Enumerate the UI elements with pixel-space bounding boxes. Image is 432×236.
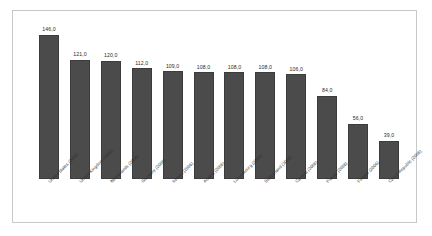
- bar-rect[interactable]: [317, 96, 337, 179]
- category-tick: United Kingdom (2006): [70, 179, 90, 223]
- bar-value-label: 84,0: [322, 88, 333, 93]
- category-tick: Ireland (2006): [163, 179, 183, 223]
- bar-rect[interactable]: [163, 71, 183, 179]
- category-tick: Germany (2006): [132, 179, 152, 223]
- plot-area: 146,0121,0120,0112,0109,0108,0108,0108,0…: [13, 11, 416, 222]
- category-tick: Finland (2006): [348, 179, 368, 223]
- category-tick: France (2006): [317, 179, 337, 223]
- category-tick: Canada (2006): [286, 179, 306, 223]
- bar-rect[interactable]: [39, 35, 59, 179]
- bar-item[interactable]: 108,0: [194, 11, 214, 179]
- bar-value-label: 56,0: [353, 116, 364, 121]
- category-tick: Switzerland (2006): [255, 179, 275, 223]
- bar-item[interactable]: 109,0: [163, 11, 183, 179]
- bar-value-label: 112,0: [135, 61, 148, 66]
- bar-rect[interactable]: [132, 68, 152, 179]
- bar-value-label: 106,0: [290, 67, 303, 72]
- category-tick: Luxembourg (2006): [224, 179, 244, 223]
- category-axis: United States (2006)United Kingdom (2006…: [39, 179, 399, 223]
- bar-value-label: 121,0: [73, 52, 86, 57]
- category-tick: United States (2006): [39, 179, 59, 223]
- category-tick: Netherlands (2006): [101, 179, 121, 223]
- bar-item[interactable]: 56,0: [348, 11, 368, 179]
- bar-item[interactable]: 39,0: [379, 11, 399, 179]
- bar-rect[interactable]: [255, 72, 275, 179]
- bar-value-label: 108,0: [228, 65, 241, 70]
- bar-value-label: 120,0: [104, 53, 117, 58]
- bar-value-label: 146,0: [42, 27, 55, 32]
- category-tick: Austria (2006): [194, 179, 214, 223]
- bar-value-label: 108,0: [197, 65, 210, 70]
- bar-item[interactable]: 146,0: [39, 11, 59, 179]
- bar-rect[interactable]: [286, 74, 306, 179]
- bar-item[interactable]: 84,0: [317, 11, 337, 179]
- bar-item[interactable]: 108,0: [224, 11, 244, 179]
- bar-rect[interactable]: [194, 72, 214, 179]
- bar-value-label: 108,0: [259, 65, 272, 70]
- bar-value-label: 39,0: [384, 133, 395, 138]
- category-tick: Czech Republic (2006): [379, 179, 399, 223]
- chart-frame: 146,0121,0120,0112,0109,0108,0108,0108,0…: [12, 10, 417, 223]
- bar-value-label: 109,0: [166, 64, 179, 69]
- bar-series: 146,0121,0120,0112,0109,0108,0108,0108,0…: [39, 11, 399, 179]
- bar-rect[interactable]: [224, 72, 244, 179]
